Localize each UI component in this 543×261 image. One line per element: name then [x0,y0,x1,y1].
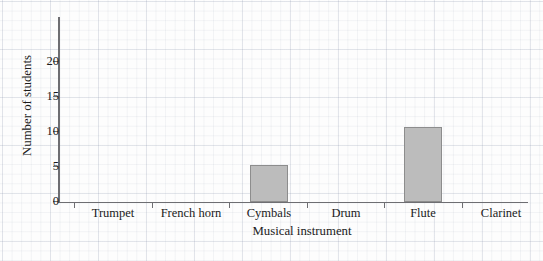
y-axis-line [58,17,60,203]
x-axis-label-french-horn: French horn [161,206,222,221]
bar-cymbals [250,165,288,202]
x-tick-mark-0 [74,202,75,208]
y-axis-title: Number of students [20,41,35,171]
x-axis-line [58,202,528,204]
x-axis-label-drum: Drum [331,206,360,221]
bar-flute [404,127,442,202]
x-axis-title: Musical instrument [222,224,382,239]
x-tick-mark-2 [229,202,230,208]
chart-screenshot: 0 5 10 15 20 Trumpet French horn [0,0,543,261]
x-axis-label-cymbals: Cymbals [247,206,291,221]
x-tick-mark-5 [462,202,463,208]
x-axis-label-flute: Flute [410,206,436,221]
x-tick-mark-3 [307,202,308,208]
x-tick-mark-1 [152,202,153,208]
y-tick-label-0: 0 [29,195,59,208]
x-axis-label-trumpet: Trumpet [92,206,135,221]
x-tick-mark-4 [384,202,385,208]
x-axis-label-clarinet: Clarinet [481,206,521,221]
bar-chart-plot-area: 0 5 10 15 20 Trumpet French horn [0,0,543,261]
